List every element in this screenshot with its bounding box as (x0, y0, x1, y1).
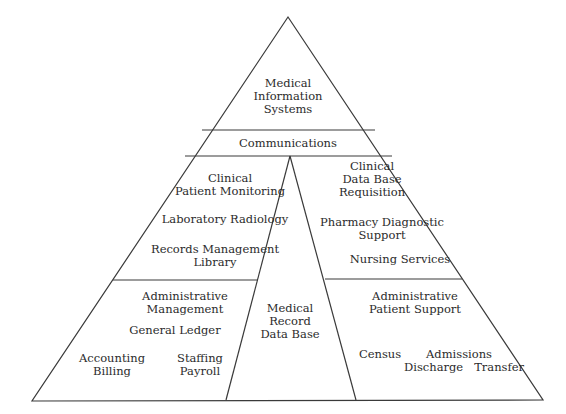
clinical-data-base-requisition-heading: Clinical Data Base Requisition (322, 160, 422, 199)
general-ledger-label: General Ledger (115, 324, 235, 337)
ll-item2-line2: Billing (77, 365, 147, 378)
staffing-payroll-label: Staffing Payroll (170, 352, 230, 378)
lr-heading-2: Patient Support (355, 303, 475, 316)
admissions-discharge-transfer-label: Admissions Discharge Transfer (404, 348, 514, 374)
administrative-management-heading: Administrative Management (130, 290, 240, 316)
ll-heading-2: Management (130, 303, 240, 316)
apex-line-3: Systems (238, 103, 338, 116)
pharmacy-diagnostic-support-label: Pharmacy Diagnostic Support (312, 216, 452, 242)
center-line-3: Data Base (250, 328, 330, 341)
laboratory-radiology-label: Laboratory Radiology (155, 213, 295, 226)
ur-item1-line2: Support (312, 229, 452, 242)
administrative-patient-support-heading: Administrative Patient Support (355, 290, 475, 316)
apex-title: Medical Information Systems (238, 77, 338, 116)
ll-item1-text: General Ledger (115, 324, 235, 337)
ul-heading-2: Patient Monitoring (170, 185, 290, 198)
ur-item2-text: Nursing Services (340, 253, 460, 266)
accounting-billing-label: Accounting Billing (77, 352, 147, 378)
communications-label: Communications (228, 137, 348, 150)
medical-information-systems-pyramid: Medical Information Systems Communicatio… (0, 0, 566, 414)
nursing-services-label: Nursing Services (340, 253, 460, 266)
communications-text: Communications (228, 137, 348, 150)
clinical-patient-monitoring-heading: Clinical Patient Monitoring (170, 172, 290, 198)
ul-item1-text: Laboratory Radiology (155, 213, 295, 226)
outer-triangle (32, 17, 543, 401)
ll-item3-line2: Payroll (170, 365, 230, 378)
census-label: Census (355, 348, 405, 361)
ur-heading-3: Requisition (322, 186, 422, 199)
lr-item1-text: Census (355, 348, 405, 361)
medical-record-data-base-label: Medical Record Data Base (250, 302, 330, 341)
records-management-library-label: Records Management Library (140, 243, 290, 269)
ul-item2-line2: Library (140, 256, 290, 269)
lr-item2-line2: Discharge Transfer (404, 361, 514, 374)
